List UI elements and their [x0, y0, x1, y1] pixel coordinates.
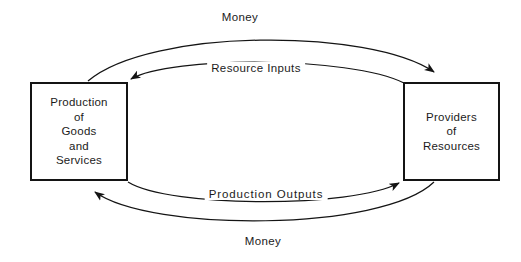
node-providers-of-resources: Providers of Resources [403, 82, 500, 181]
circular-flow-diagram: Production of Goods and Services Provide… [0, 0, 521, 262]
node-production-line-3: Goods [61, 124, 96, 139]
node-providers-line-3: Resources [423, 139, 480, 154]
edge-label-resource-inputs: Resource Inputs [207, 62, 305, 74]
node-providers-line-2: of [446, 124, 456, 139]
node-production-line-2: of [74, 110, 84, 125]
node-providers-line-1: Providers [426, 110, 477, 125]
edge-label-production-outputs: Production Outputs [205, 188, 328, 200]
edge-label-money-bottom: Money [241, 235, 286, 247]
node-production-line-4: and [69, 139, 89, 154]
edge-label-money-top: Money [218, 11, 263, 23]
node-production-of-goods-and-services: Production of Goods and Services [30, 82, 128, 181]
node-production-line-5: Services [56, 153, 102, 168]
node-production-line-1: Production [50, 95, 107, 110]
